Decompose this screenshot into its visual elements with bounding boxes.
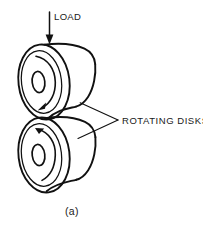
figure-caption: (a) (65, 205, 79, 217)
arrow-down-icon (46, 12, 54, 45)
diagram-canvas: LOAD ROTATING DISKS (a) (0, 0, 203, 227)
rotating-disks-label: ROTATING DISKS (122, 115, 203, 126)
figure-rotating-disks: LOAD ROTATING DISKS (a) (0, 0, 203, 227)
lower-disk (14, 115, 95, 196)
load-label: LOAD (54, 11, 81, 22)
upper-disk (14, 42, 95, 123)
